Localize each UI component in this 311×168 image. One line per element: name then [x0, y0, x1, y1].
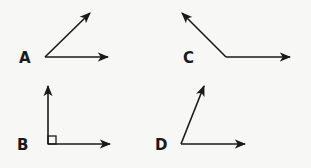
angle-b	[48, 86, 110, 144]
angle-d-ray-1	[181, 86, 204, 144]
angle-label-b: B	[17, 138, 28, 153]
angle-d	[181, 86, 245, 144]
angle-label-c: C	[183, 51, 194, 66]
angle-label-d: D	[155, 138, 167, 153]
angle-a	[45, 13, 108, 57]
right-angle-marker-icon	[48, 136, 56, 144]
angle-a-ray-1	[45, 13, 90, 57]
angle-c	[182, 13, 290, 57]
angle-label-a: A	[19, 51, 31, 66]
